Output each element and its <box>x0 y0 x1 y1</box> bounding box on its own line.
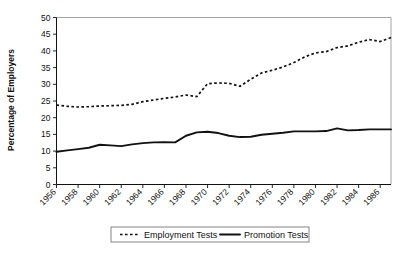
y-tick-label: 25 <box>41 96 51 106</box>
x-axis-ticks: 1956195819601962196419661968197019721974… <box>37 185 381 208</box>
chart-legend: Employment TestsPromotion Tests <box>111 227 309 242</box>
y-tick-label: 20 <box>41 113 51 123</box>
data-series-group <box>57 38 392 152</box>
y-tick-label: 45 <box>41 29 51 39</box>
x-tick-label: 1980 <box>296 187 317 208</box>
legend-label-promotion-tests: Promotion Tests <box>244 230 309 240</box>
x-tick-label: 1972 <box>210 187 231 208</box>
x-tick-label: 1984 <box>340 187 361 208</box>
y-tick-label: 40 <box>41 46 51 56</box>
x-tick-label: 1974 <box>232 187 253 208</box>
x-tick-label: 1962 <box>102 187 123 208</box>
x-tick-label: 1958 <box>59 187 80 208</box>
y-tick-label: 5 <box>46 163 51 173</box>
series-line-promotion-tests <box>57 128 392 151</box>
legend-label-employment-tests: Employment Tests <box>144 230 218 240</box>
x-tick-label: 1986 <box>361 187 382 208</box>
plot-frame <box>57 18 392 185</box>
chart-container: Percentage of Employers 0510152025303540… <box>0 0 408 259</box>
x-tick-label: 1968 <box>167 187 188 208</box>
x-tick-label: 1956 <box>37 187 58 208</box>
x-tick-label: 1976 <box>253 187 274 208</box>
x-tick-label: 1978 <box>275 187 296 208</box>
x-tick-label: 1960 <box>81 187 102 208</box>
x-tick-label: 1982 <box>318 187 339 208</box>
y-axis-label: Percentage of Employers <box>6 49 16 151</box>
y-tick-label: 10 <box>41 146 51 156</box>
y-tick-label: 50 <box>41 13 51 23</box>
series-line-employment-tests <box>57 38 392 107</box>
x-tick-label: 1964 <box>124 187 145 208</box>
x-tick-label: 1970 <box>189 187 210 208</box>
y-tick-label: 35 <box>41 63 51 73</box>
line-chart: Percentage of Employers 0510152025303540… <box>0 0 408 259</box>
y-tick-label: 15 <box>41 129 51 139</box>
plot-border <box>57 18 392 185</box>
y-axis-ticks: 05101520253035404550 <box>41 13 56 190</box>
x-tick-label: 1966 <box>145 187 166 208</box>
y-tick-label: 30 <box>41 79 51 89</box>
y-axis-title: Percentage of Employers <box>6 49 16 151</box>
